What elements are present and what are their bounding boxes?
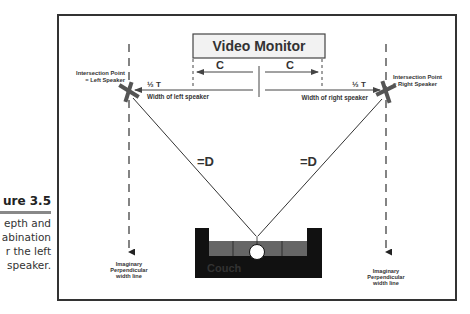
half-t-right-label: ½ T — [352, 80, 366, 89]
perp-left-label-3: width line — [115, 273, 142, 279]
d-left-label: =D — [197, 154, 214, 169]
left-speaker-x-icon — [121, 84, 137, 100]
listener-head-icon — [250, 245, 265, 260]
monitor-label: Video Monitor — [212, 38, 306, 54]
d-line-right — [258, 99, 382, 236]
intersection-left-label-1: Intersection Point — [76, 70, 125, 76]
width-left-label: Width of left speaker — [147, 93, 209, 101]
width-right-label: Width of right speaker — [302, 94, 369, 102]
intersection-left-label-2: = Left Speaker — [85, 77, 126, 83]
perp-right-labels: Imaginary Perpendicular width line — [367, 268, 405, 286]
intersection-right-label-1: Intersection Point — [393, 74, 442, 80]
d-right-label: =D — [300, 154, 317, 169]
couch-label: Couch — [207, 262, 242, 274]
perp-right-label-3: width line — [372, 280, 399, 286]
c-right-label: C — [286, 59, 294, 71]
speaker-placement-diagram: Video Monitor C C ½ T ½ T Width of left … — [0, 0, 470, 314]
half-t-left-label: ½ T — [147, 80, 161, 89]
right-speaker-x-icon — [378, 83, 394, 101]
perp-left-labels: Imaginary Perpendicular width line — [110, 261, 148, 279]
c-left-label: C — [216, 59, 224, 71]
d-line-left — [133, 98, 256, 236]
video-monitor: Video Monitor — [193, 34, 325, 58]
intersection-right-label-2: = Right Speaker — [393, 81, 438, 87]
